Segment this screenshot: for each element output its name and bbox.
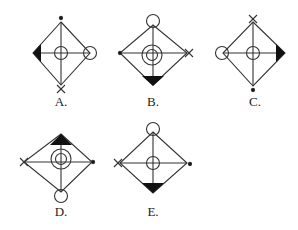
- diamond-figures: [0, 0, 298, 230]
- dot-icon: [188, 162, 191, 165]
- dot-icon: [118, 51, 121, 54]
- option-label-b: B.: [147, 94, 159, 110]
- filled-triangle-icon: [276, 44, 285, 62]
- option-label-d: D.: [55, 204, 68, 220]
- dot-icon: [59, 16, 62, 19]
- figure-a: [33, 16, 97, 93]
- filled-triangle-icon: [142, 183, 164, 193]
- outer-circle-icon: [142, 45, 162, 65]
- figure-d: [20, 134, 95, 203]
- option-label-e: E.: [147, 204, 158, 220]
- option-label-c: C.: [249, 94, 261, 110]
- figure-e: [114, 123, 192, 194]
- filled-triangle-icon: [33, 44, 41, 62]
- cross-icon: [57, 85, 65, 93]
- figure-b: [118, 15, 193, 87]
- figure-c: [216, 15, 286, 92]
- filled-triangle-icon: [142, 76, 164, 86]
- dot-icon: [91, 160, 94, 163]
- dot-icon: [251, 88, 254, 91]
- inner-circle-icon: [147, 50, 158, 61]
- option-label-a: A.: [55, 94, 68, 110]
- diamond-shape: [223, 22, 285, 86]
